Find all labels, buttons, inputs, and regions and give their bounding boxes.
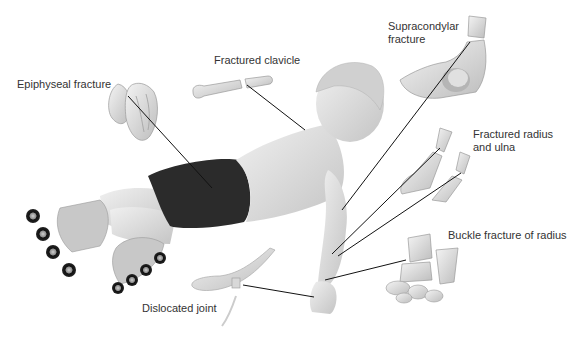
fracture-diagram: Epiphyseal fracture Fractured clavicle S… [0,0,575,339]
epiphyseal-bone-illustration [109,83,158,140]
leader-line-dislocated [243,285,314,297]
label-dislocated-joint: Dislocated joint [142,302,217,315]
label-supracondylar-fracture: Supracondylar fracture [388,20,459,46]
buckle-fracture-bone-illustration [386,234,458,303]
label-epiphyseal-fracture: Epiphyseal fracture [17,78,111,91]
leader-line-radius-ulna-2 [338,173,461,256]
label-fractured-radius-ulna: Fractured radius and ulna [473,128,553,154]
illustration [0,0,575,339]
label-buckle-fracture-radius: Buckle fracture of radius [448,229,567,242]
child-figure-illustration [26,62,384,314]
label-fractured-clavicle: Fractured clavicle [214,54,300,67]
leader-line-clavicle [247,85,305,130]
clavicle-bone-illustration [193,76,273,98]
radius-ulna-bone-illustration [401,128,470,202]
